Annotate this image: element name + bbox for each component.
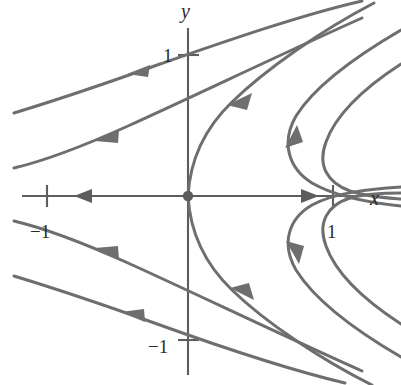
phase-portrait-figure: x y 1 −1 1 −1 xyxy=(0,0,401,385)
trajectory-right-inner-upper xyxy=(288,30,401,206)
y-tick-label-positive-one: 1 xyxy=(163,45,173,66)
arrow-lower-left-inner xyxy=(95,246,119,259)
x-axis-flow-arrow-left xyxy=(74,189,92,203)
y-tick-label-negative-one: −1 xyxy=(148,336,168,357)
separatrix-upper-right xyxy=(188,3,374,196)
axes-group xyxy=(22,28,358,375)
x-axis-flow-arrow-right xyxy=(301,189,319,203)
x-tick-label-positive-one: 1 xyxy=(327,221,337,242)
y-axis-label: y xyxy=(179,0,190,23)
x-axis-label: x xyxy=(369,187,379,209)
separatrix-lower-right xyxy=(188,196,372,385)
arrow-upper-left-inner xyxy=(95,130,119,143)
phase-portrait-canvas: x y 1 −1 1 −1 xyxy=(0,0,401,385)
equilibrium-point-origin xyxy=(183,191,193,201)
trajectory-right-outer-lower xyxy=(323,193,401,324)
trajectory-right-outer-upper xyxy=(323,64,401,199)
trajectory-lower-left-outer xyxy=(14,276,345,383)
x-tick-label-negative-one: −1 xyxy=(30,221,50,242)
trajectory-right-inner-lower xyxy=(288,187,401,357)
